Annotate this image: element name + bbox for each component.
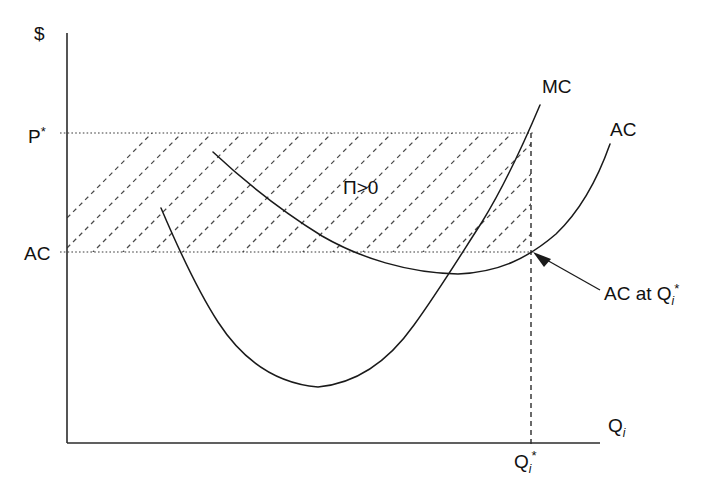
ac-level-label: AC <box>24 243 50 264</box>
profit-region-label: Π>0 <box>343 177 378 198</box>
mc-curve-label: MC <box>542 76 572 97</box>
ac-annotation-arrowhead <box>533 252 551 267</box>
economics-cost-curve-figure: $ P* AC Π>0 MC AC AC at Qi* Qi Qi* <box>0 0 715 497</box>
ac-curve <box>213 144 610 274</box>
x-axis-label: Qi <box>608 415 626 440</box>
quantity-star-label: Qi* <box>514 448 537 476</box>
y-axis-label: $ <box>34 23 45 44</box>
ac-at-q-annotation: AC at Qi* <box>604 281 679 308</box>
ac-annotation-leader-line <box>545 259 600 290</box>
price-level-label: P* <box>28 124 46 147</box>
ac-curve-label: AC <box>610 119 636 140</box>
mc-curve <box>161 105 540 387</box>
profit-region-hatching <box>25 125 640 260</box>
cost-curves-chart: $ P* AC Π>0 MC AC AC at Qi* Qi Qi* <box>0 0 715 497</box>
